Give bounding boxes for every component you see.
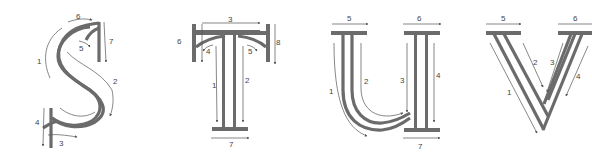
u-label-2: 2 bbox=[364, 77, 369, 86]
t-label-3: 3 bbox=[228, 15, 233, 24]
v-label-6: 6 bbox=[573, 14, 578, 23]
v-label-4: 4 bbox=[576, 72, 581, 81]
u-label-5: 5 bbox=[347, 14, 352, 23]
u-label-7: 7 bbox=[418, 142, 423, 151]
s-label-5: 5 bbox=[79, 44, 84, 53]
v-label-5: 5 bbox=[501, 14, 506, 23]
t-label-6: 6 bbox=[177, 37, 182, 46]
letter-t: 1 2 3 4 5 6 7 8 bbox=[177, 15, 281, 149]
t-label-7: 7 bbox=[229, 140, 234, 149]
s-label-7: 7 bbox=[109, 37, 114, 46]
t-label-8: 8 bbox=[276, 38, 281, 47]
letter-u: 1 2 3 4 5 6 7 bbox=[329, 14, 441, 151]
s-label-2: 2 bbox=[113, 77, 118, 86]
s-label-1: 1 bbox=[37, 57, 42, 66]
s-label-6: 6 bbox=[76, 12, 81, 21]
v-label-2: 2 bbox=[533, 58, 538, 67]
u-label-4: 4 bbox=[436, 71, 441, 80]
t-label-5: 5 bbox=[248, 47, 253, 56]
letter-v: 1 2 3 4 5 6 bbox=[486, 14, 592, 133]
stroke-order-diagram: 1 2 3 4 5 6 7 1 2 3 4 5 6 7 8 bbox=[0, 0, 592, 160]
s-label-4: 4 bbox=[35, 118, 40, 127]
u-label-6: 6 bbox=[417, 14, 422, 23]
u-label-3: 3 bbox=[400, 76, 405, 85]
v-label-3: 3 bbox=[550, 58, 555, 67]
u-label-1: 1 bbox=[329, 87, 334, 96]
letter-s: 1 2 3 4 5 6 7 bbox=[35, 12, 118, 148]
s-label-3: 3 bbox=[59, 139, 64, 148]
v-label-1: 1 bbox=[507, 88, 512, 97]
t-label-2: 2 bbox=[245, 76, 250, 85]
t-label-4: 4 bbox=[206, 47, 211, 56]
t-label-1: 1 bbox=[212, 81, 217, 90]
